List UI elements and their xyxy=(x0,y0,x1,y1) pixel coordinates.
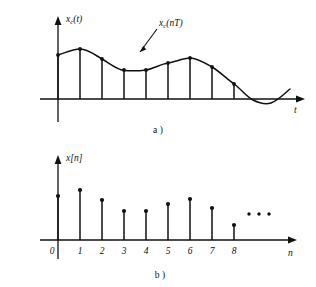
panel-a-sample-dot-3 xyxy=(122,68,126,72)
panel-b-tick-6: 6 xyxy=(188,246,193,256)
panel-b-x-axis-label: n xyxy=(288,248,293,258)
panel-b-tick-0: 0 xyxy=(50,246,55,256)
panel-a-sample-dot-1 xyxy=(78,47,82,51)
panel-a-x-axis-label: t xyxy=(294,105,297,115)
figure-canvas: xc(nT) xc(t) t a ) xyxy=(0,0,316,287)
panel-b-tick-7: 7 xyxy=(210,246,216,256)
panel-b-ellipsis-dot-3 xyxy=(267,212,270,215)
panel-b-dot-4 xyxy=(144,209,148,213)
panel-a-annotation-arrowhead xyxy=(140,46,146,52)
panel-a-sample-dot-2 xyxy=(100,57,104,61)
panel-a-sample-stems xyxy=(58,49,234,99)
signal-sampling-figure: xc(nT) xc(t) t a ) xyxy=(0,0,316,287)
panel-b-y-axis-arrowhead xyxy=(55,155,62,164)
panel-a-group: xc(nT) xc(t) t a ) xyxy=(40,14,305,136)
panel-a-annotation-label: xc(nT) xyxy=(158,18,183,29)
panel-a-sample-dot-6 xyxy=(188,56,192,60)
panel-b-dot-7 xyxy=(210,206,214,210)
panel-b-dot-8 xyxy=(232,223,236,227)
panel-a-annotation-tail: (nT) xyxy=(166,18,182,29)
panel-a-continuous-curve xyxy=(58,49,290,104)
panel-b-tick-5: 5 xyxy=(166,246,171,256)
panel-b-tick-1: 1 xyxy=(78,246,83,256)
panel-b-dot-6 xyxy=(188,197,192,201)
panel-b-tick-4: 4 xyxy=(144,246,149,256)
panel-a-sample-dot-7 xyxy=(210,65,214,69)
panel-b-ellipsis-dot-1 xyxy=(247,212,250,215)
panel-b-tick-labels: 0 1 2 3 4 5 6 7 8 xyxy=(50,246,237,256)
panel-b-x-axis-arrowhead xyxy=(288,237,297,244)
panel-b-group: 0 1 2 3 4 5 6 7 8 x[n] n b ) xyxy=(40,153,297,281)
panel-b-dot-3 xyxy=(122,209,126,213)
panel-a-y-axis-arrowhead xyxy=(55,16,62,25)
panel-b-dot-2 xyxy=(100,198,104,202)
panel-a-caption: a ) xyxy=(153,125,163,136)
panel-b-signal-label: x[n] xyxy=(65,153,83,163)
panel-a-signal-label-tail: (t) xyxy=(73,14,82,25)
panel-a-x-axis-arrowhead xyxy=(296,96,305,103)
panel-a-sample-dot-0 xyxy=(56,53,60,57)
panel-b-dot-1 xyxy=(78,188,82,192)
panel-b-dot-5 xyxy=(166,202,170,206)
panel-a-sample-dot-8 xyxy=(232,82,236,86)
panel-b-ellipsis xyxy=(247,212,270,215)
panel-b-caption: b ) xyxy=(155,270,165,281)
panel-b-tick-8: 8 xyxy=(232,246,237,256)
panel-b-ellipsis-dot-2 xyxy=(257,212,260,215)
panel-a-signal-label: xc(t) xyxy=(65,14,82,25)
panel-b-tick-2: 2 xyxy=(100,246,105,256)
panel-a-sample-dot-5 xyxy=(166,61,170,65)
panel-b-tick-3: 3 xyxy=(121,246,127,256)
panel-a-sample-dot-4 xyxy=(144,68,148,72)
panel-b-stems xyxy=(58,190,234,240)
panel-b-dot-0 xyxy=(56,194,60,198)
